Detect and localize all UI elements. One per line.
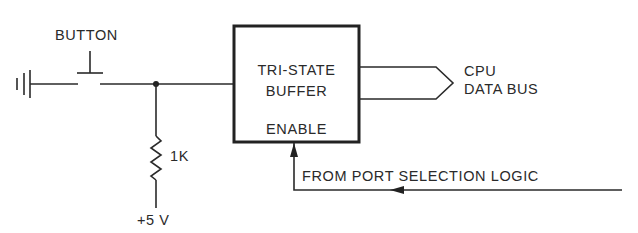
resistor-icon (151, 136, 161, 180)
push-button-icon (77, 51, 103, 73)
enable-label: ENABLE (266, 121, 327, 137)
buffer-label-line2: BUFFER (266, 83, 328, 99)
enable-left-arrow-icon (390, 186, 404, 194)
enable-source-label: FROM PORT SELECTION LOGIC (302, 168, 539, 184)
enable-up-arrow-icon (290, 143, 298, 157)
data-bus-arrow-icon (359, 67, 453, 99)
supply-label: +5 V (137, 212, 170, 228)
bus-label-line1: CPU (464, 63, 496, 79)
buffer-label-line1: TRI-STATE (257, 62, 335, 78)
circuit-diagram: BUTTON 1K +5 V TRI-STATE BUFFER ENABLE C… (0, 0, 638, 233)
resistor-label: 1K (170, 148, 189, 164)
button-label: BUTTON (55, 27, 118, 43)
bus-label-line2: DATA BUS (464, 81, 538, 97)
ground-icon (17, 70, 30, 98)
